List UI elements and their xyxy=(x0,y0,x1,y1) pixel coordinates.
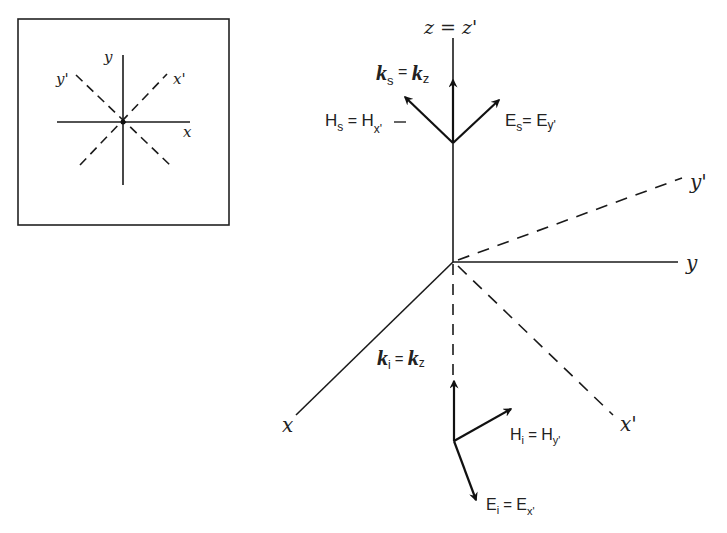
es-arrow-icon xyxy=(453,100,499,143)
es-label: Es= Ey' xyxy=(505,111,556,134)
hs-label: Hs = Hx' xyxy=(325,111,382,136)
x-prime-axis xyxy=(458,266,613,415)
ks-label: ks = kz xyxy=(376,60,429,88)
coordinate-diagram: y x y' x' z = z' y y' x x' ks = kz Hs = … xyxy=(0,0,727,533)
x-prime-label: x' xyxy=(620,412,637,436)
inset-y-prime-label: y' xyxy=(55,70,69,88)
hi-label: Hi = Hy' xyxy=(510,426,560,446)
z-label: z = z' xyxy=(423,16,477,38)
incident-vectors: ki = kz Hi = Hy' Ei = Ex' xyxy=(377,345,560,517)
inset-y-label: y xyxy=(103,48,113,66)
hs-arrow-icon xyxy=(405,97,453,143)
inset-x-prime-label: x' xyxy=(173,70,186,88)
ei-label: Ei = Ex' xyxy=(486,496,535,517)
ki-label: ki = kz xyxy=(377,345,425,372)
x-axis xyxy=(296,262,453,415)
inset-panel: y x y' x' xyxy=(18,19,229,225)
inset-origin xyxy=(121,120,126,125)
y-label: y xyxy=(685,251,698,275)
inset-x-label: x xyxy=(183,123,192,141)
scattered-vectors: ks = kz Hs = Hx' Es= Ey' xyxy=(325,60,556,143)
x-label: x xyxy=(282,413,293,437)
ei-arrow-icon xyxy=(454,441,476,500)
y-prime-label: y' xyxy=(689,170,707,194)
y-prime-axis xyxy=(458,178,682,260)
main-axes: z = z' y y' x x' xyxy=(282,16,707,437)
hi-arrow-icon xyxy=(454,409,511,441)
